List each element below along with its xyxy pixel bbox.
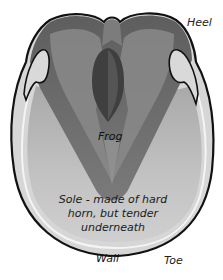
label-frog: Frog (98, 131, 123, 142)
label-wall: Wall (96, 253, 119, 264)
label-sole: Sole - made of hard horn, but tender und… (52, 193, 174, 235)
label-heel: Heel (187, 17, 212, 28)
label-toe: Toe (164, 255, 183, 266)
